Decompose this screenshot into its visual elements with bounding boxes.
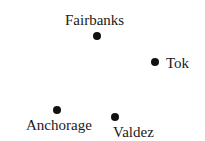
city-label-anchorage: Anchorage [26,118,92,133]
map-canvas: Fairbanks Tok Anchorage Valdez [0,0,205,141]
city-label-tok: Tok [166,56,189,71]
city-label-fairbanks: Fairbanks [65,13,124,28]
city-marker-valdez [111,113,119,121]
city-marker-anchorage [53,106,61,114]
city-marker-tok [151,58,159,66]
city-marker-fairbanks [93,32,101,40]
city-label-valdez: Valdez [113,125,154,140]
